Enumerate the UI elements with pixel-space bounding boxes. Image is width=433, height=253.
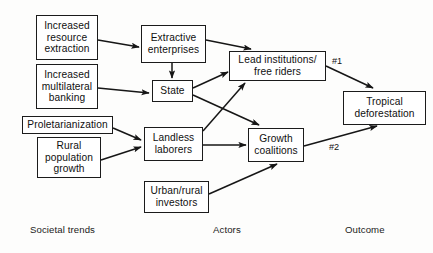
node-line: Urban/rural	[147, 185, 205, 197]
edge-label-2: #2	[329, 142, 339, 152]
edge-state-to-growth	[193, 95, 259, 125]
edge-banking-to-state	[98, 88, 149, 93]
node-tropical-deforestation[interactable]: Tropical deforestation	[343, 91, 426, 125]
node-increased-multilateral-banking[interactable]: Increased multilateral banking	[36, 64, 98, 109]
column-label-societal-trends: Societal trends	[30, 224, 95, 235]
edge-proletarianization-to-landless	[113, 128, 141, 140]
node-increased-resource-extraction[interactable]: Increased resource extraction	[36, 15, 98, 60]
edge-landless-to-lead	[203, 83, 245, 131]
node-urban-rural-investors[interactable]: Urban/rural investors	[144, 181, 209, 213]
node-line: laborers	[150, 144, 198, 156]
node-line: growth	[42, 163, 96, 175]
edge-state-to-lead	[193, 72, 228, 88]
node-line: Rural	[42, 140, 96, 152]
node-rural-population-growth[interactable]: Rural population growth	[37, 137, 101, 178]
edge-rural-to-landless	[101, 147, 141, 160]
node-line: State	[157, 85, 187, 97]
node-state[interactable]: State	[152, 80, 193, 102]
edge-resource-to-extractive	[98, 40, 139, 47]
node-line: coalitions	[251, 145, 300, 157]
node-line: resource	[41, 32, 93, 44]
node-line: population	[42, 152, 96, 164]
node-line: Increased	[39, 69, 95, 81]
node-lead-institutions-free-riders[interactable]: Lead institutions/ free riders	[229, 51, 326, 81]
node-line: investors	[147, 197, 205, 209]
edge-lead-to-deforestation	[326, 66, 373, 88]
node-line: Lead institutions/	[235, 54, 319, 66]
node-line: deforestation	[351, 108, 417, 120]
node-line: Extractive	[145, 32, 203, 44]
edge-extractive-to-lead	[206, 40, 251, 49]
node-line: enterprises	[145, 44, 203, 56]
node-extractive-enterprises[interactable]: Extractive enterprises	[141, 25, 206, 63]
column-label-actors: Actors	[213, 224, 241, 235]
edge-investors-to-growth	[209, 164, 277, 194]
node-line: Increased	[41, 20, 93, 32]
node-landless-laborers[interactable]: Landless laborers	[144, 127, 203, 161]
edge-label-1: #1	[332, 56, 342, 66]
node-line: free riders	[235, 66, 319, 78]
node-line: Proletarianization	[24, 119, 111, 131]
node-line: multilateral	[39, 81, 95, 93]
node-line: extraction	[41, 43, 93, 55]
node-proletarianization[interactable]: Proletarianization	[22, 116, 113, 134]
column-label-outcome: Outcome	[345, 224, 385, 235]
node-line: banking	[39, 92, 95, 104]
node-growth-coalitions[interactable]: Growth coalitions	[248, 128, 304, 162]
edge-growth-to-deforestation	[304, 126, 377, 146]
node-line: Growth	[251, 133, 300, 145]
node-line: Tropical	[351, 96, 417, 108]
node-line: Landless	[150, 132, 198, 144]
diagram-canvas: Increased resource extraction Increased …	[0, 0, 433, 253]
